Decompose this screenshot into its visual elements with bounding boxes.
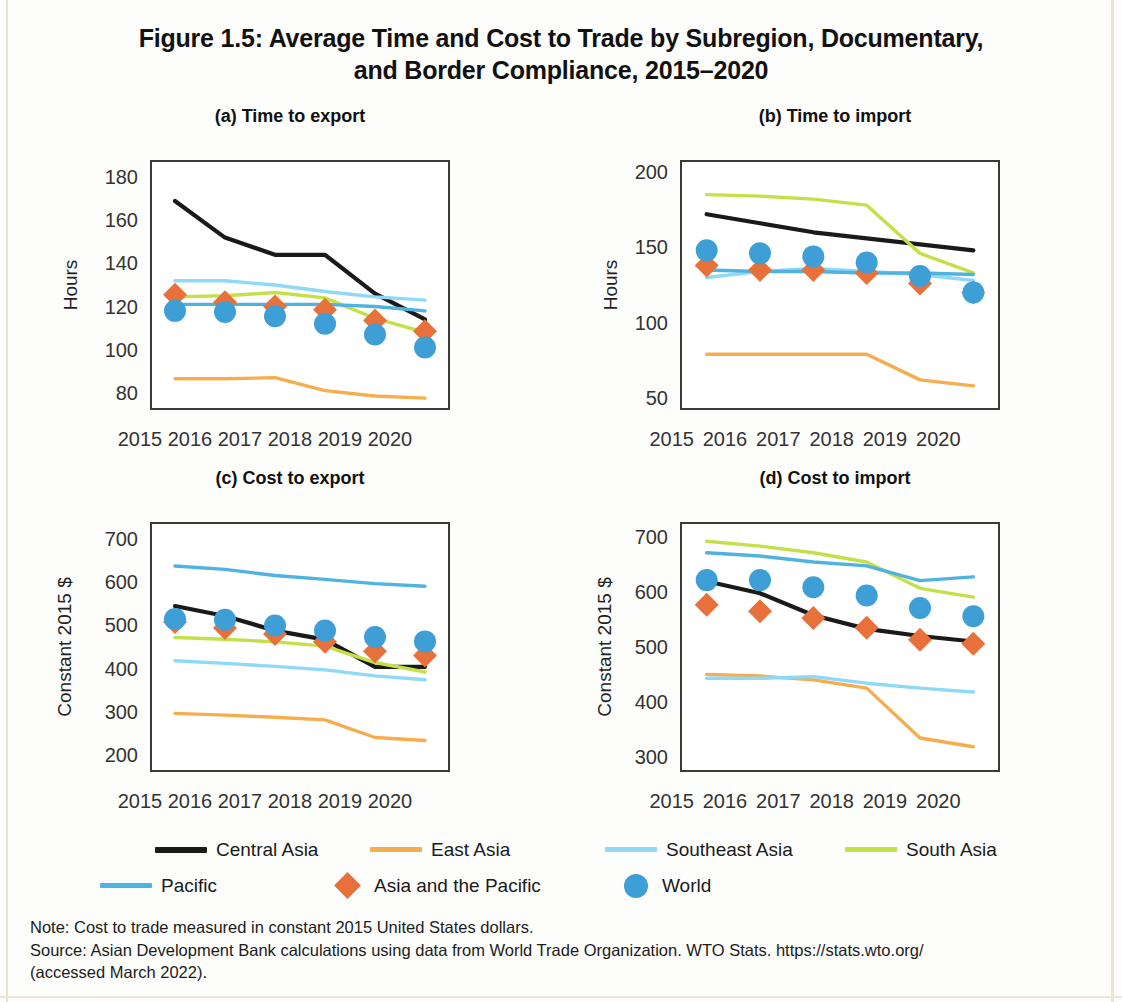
legend-item-pacific[interactable]: Pacific [100,874,217,897]
marker-world-a-2015 [164,300,186,322]
series-line-c-pacific [175,566,425,586]
series-layer-c [30,468,550,798]
marker-world-d-2017 [802,576,824,598]
series-line-b-east-asia [707,354,974,386]
series-line-a-east-asia [175,378,425,398]
panel-cost-to-import: (d) Cost to import300400500600700Constan… [570,468,1100,798]
legend-label: Asia and the Pacific [374,875,541,896]
marker-world-c-2020 [414,630,436,652]
marker-asia-pacific-d-2016 [748,599,772,623]
marker-world-d-2015 [696,569,718,591]
marker-world-b-2017 [802,245,824,267]
note-line: Note: Cost to trade measured in constant… [30,916,1090,939]
marker-world-c-2015 [164,608,186,630]
series-layer-b [570,106,1100,436]
marker-world-c-2019 [364,626,386,648]
legend-line-swatch-icon [370,847,422,852]
panel-cost-to-export: (c) Cost to export200300400500600700Cons… [30,468,550,798]
series-line-a-central-asia [175,201,425,320]
legend-item-world[interactable]: World [618,874,711,898]
page-edge-bottom [0,996,1122,998]
figure-notes: Note: Cost to trade measured in constant… [30,916,1090,984]
series-line-c-central-asia [175,606,425,667]
figure-title-line-2: and Border Compliance, 2015–2020 [0,54,1122,86]
marker-asia-pacific-d-2020 [961,632,985,656]
legend-label: Southeast Asia [666,839,793,860]
marker-world-a-2020 [414,337,436,359]
legend-item-asia-and-the-pacific[interactable]: Asia and the Pacific [330,874,541,897]
series-line-d-east-asia [707,674,974,746]
chart-legend: Central AsiaEast AsiaSoutheast AsiaSouth… [0,836,1122,908]
series-line-b-central-asia [707,214,974,250]
legend-line-swatch-icon [155,847,207,853]
marker-world-d-2018 [856,584,878,606]
legend-label: World [662,875,711,896]
series-line-c-east-asia [175,713,425,740]
source-line-2: (accessed March 2022). [30,961,1090,984]
legend-circle-marker-icon [618,874,662,898]
legend-diamond-marker-icon [330,875,374,897]
series-layer-a [30,106,550,436]
marker-world-a-2018 [314,313,336,335]
marker-world-d-2019 [909,597,931,619]
legend-label: South Asia [906,839,997,860]
marker-world-b-2020 [962,282,984,304]
marker-world-b-2016 [749,242,771,264]
marker-world-b-2015 [696,239,718,261]
marker-world-a-2019 [364,324,386,346]
marker-asia-pacific-d-2018 [855,616,879,640]
legend-label: East Asia [431,839,510,860]
legend-item-east-asia[interactable]: East Asia [370,838,510,861]
figure-title: Figure 1.5: Average Time and Cost to Tra… [0,22,1122,86]
marker-world-d-2016 [749,569,771,591]
panel-time-to-import: (b) Time to import50100150200Hours201520… [570,106,1100,436]
figure-page: Figure 1.5: Average Time and Cost to Tra… [0,0,1122,1002]
marker-asia-pacific-d-2019 [908,628,932,652]
marker-world-b-2018 [856,251,878,273]
legend-line-swatch-icon [100,883,152,888]
series-layer-d [570,468,1100,798]
panel-time-to-export: (a) Time to export80100120140160180Hours… [30,106,550,436]
legend-label: Central Asia [216,839,318,860]
legend-item-south-asia[interactable]: South Asia [845,838,997,861]
marker-world-c-2018 [314,620,336,642]
marker-world-b-2019 [909,265,931,287]
legend-line-swatch-icon [605,847,657,852]
series-line-a-pacific [175,304,425,310]
marker-world-a-2016 [214,301,236,323]
figure-title-line-1: Figure 1.5: Average Time and Cost to Tra… [0,22,1122,54]
legend-item-central-asia[interactable]: Central Asia [155,838,318,861]
marker-world-c-2016 [214,609,236,631]
legend-label: Pacific [161,875,217,896]
legend-item-southeast-asia[interactable]: Southeast Asia [605,838,793,861]
marker-asia-pacific-d-2015 [695,593,719,617]
legend-line-swatch-icon [845,847,897,852]
marker-world-a-2017 [264,305,286,327]
source-line-1: Source: Asian Development Bank calculati… [30,939,1090,962]
marker-world-c-2017 [264,614,286,636]
marker-world-d-2020 [962,605,984,627]
